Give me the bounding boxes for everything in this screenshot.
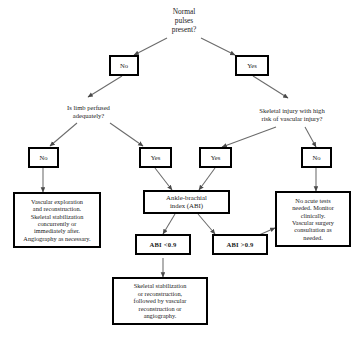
node-root-answer-no[interactable]: No	[109, 55, 139, 76]
node-normal-pulses-present: Normal pulses present?	[148, 5, 220, 38]
node-label: No	[30, 154, 57, 162]
node-root-answer-yes[interactable]: Yes	[235, 55, 269, 76]
node-label: Is limb perfused adequately?	[40, 104, 137, 120]
node-label: No acute tests needed. Monitor clinicall…	[277, 197, 349, 242]
node-label: Ankle-brachial index (ABI)	[145, 194, 228, 210]
edge-yes-to-skeletal	[253, 76, 288, 98]
node-label: Yes	[237, 62, 267, 70]
edge-abi-to-abi-high	[198, 214, 215, 234]
edge-perfused-to-yes	[110, 123, 143, 146]
node-label: Normal pulses present?	[148, 8, 220, 34]
node-question-limb-perfused: Is limb perfused adequately?	[40, 100, 137, 123]
node-perfused-answer-no[interactable]: No	[28, 147, 59, 168]
edge-skeletal-to-yes	[222, 127, 276, 147]
node-result-abi-high[interactable]: ABI >0.9	[212, 234, 268, 255]
edge-perfused-to-no	[50, 123, 77, 146]
node-label: No	[303, 154, 330, 162]
edge-root-to-no	[134, 38, 167, 55]
node-label: ABI <0.9	[137, 241, 189, 249]
node-outcome-vascular-exploration[interactable]: Vascular exploration and reconstruction.…	[13, 192, 101, 248]
edge-skeletal-to-no	[305, 127, 316, 147]
node-label: Vascular exploration and reconstruction.…	[15, 198, 99, 243]
edge-root-to-yes	[201, 38, 235, 55]
node-label: Skeletal stabilization or reconstruction…	[114, 282, 206, 319]
edge-yes-left-to-abi	[155, 168, 172, 190]
node-skeletal-answer-no[interactable]: No	[301, 147, 332, 168]
edge-abi-to-abi-low	[163, 214, 175, 234]
edge-yes-right-to-abi	[199, 168, 215, 190]
node-skeletal-answer-yes[interactable]: Yes	[199, 147, 232, 168]
node-label: No	[111, 62, 137, 70]
flowchart-canvas: Normal pulses present? No Yes Is limb pe…	[0, 0, 360, 344]
node-label: Yes	[141, 154, 170, 162]
node-test-ankle-brachial-index[interactable]: Ankle-brachial index (ABI)	[143, 190, 230, 214]
node-result-abi-low[interactable]: ABI <0.9	[135, 234, 191, 255]
node-label: ABI >0.9	[214, 241, 266, 249]
node-label: Yes	[201, 154, 230, 162]
edge-no-to-perfused	[88, 76, 122, 97]
node-outcome-skeletal-stabilization[interactable]: Skeletal stabilization or reconstruction…	[112, 277, 208, 325]
node-label: Skeletal injury with high risk of vascul…	[232, 107, 352, 123]
node-outcome-no-acute-tests[interactable]: No acute tests needed. Monitor clinicall…	[275, 191, 351, 247]
node-perfused-answer-yes[interactable]: Yes	[139, 147, 172, 168]
node-question-skeletal-injury: Skeletal injury with high risk of vascul…	[232, 103, 352, 127]
